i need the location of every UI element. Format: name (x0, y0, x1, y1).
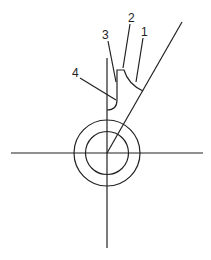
leader-line-2 (123, 24, 130, 68)
label-2: 2 (128, 12, 135, 24)
diagonal-line (107, 22, 182, 153)
leader-line-4 (80, 78, 116, 100)
label-3: 3 (102, 29, 109, 41)
tool-profile (107, 70, 143, 110)
label-4: 4 (72, 67, 79, 79)
label-1: 1 (141, 26, 148, 38)
leader-line-3 (108, 41, 116, 82)
leader-line-1 (136, 38, 143, 82)
